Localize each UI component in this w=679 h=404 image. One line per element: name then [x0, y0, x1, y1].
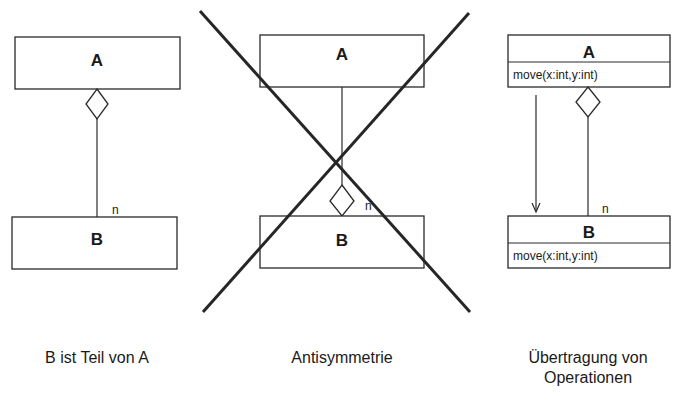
- class-a-name: A: [336, 45, 348, 64]
- class-b-name: B: [336, 231, 348, 250]
- caption-line-2: Operationen: [498, 368, 678, 388]
- multiplicity-label: n: [602, 202, 609, 216]
- caption-operation-propagation: Übertragung von Operationen: [498, 348, 678, 388]
- caption-line-1: Übertragung von: [498, 348, 678, 368]
- aggregation-diamond-icon: [86, 89, 108, 119]
- uml-aggregation-diagrams: A n B A n B A move(x:int,y:int) n B move…: [0, 0, 679, 404]
- caption-part-of: B ist Teil von A: [12, 348, 182, 368]
- class-a-name: A: [583, 43, 595, 62]
- caption-antisymmetry: Antisymmetrie: [262, 348, 422, 368]
- class-b-name: B: [91, 230, 103, 249]
- class-a-name: A: [91, 51, 103, 70]
- multiplicity-label: n: [112, 203, 119, 217]
- aggregation-diamond-icon: [330, 185, 354, 216]
- class-a-operation: move(x:int,y:int): [513, 68, 598, 82]
- diagram-antisymmetry: A n B: [200, 11, 470, 312]
- diagram-operation-propagation: A move(x:int,y:int) n B move(x:int,y:int…: [508, 35, 670, 268]
- class-b-operation: move(x:int,y:int): [513, 249, 598, 263]
- diagram-part-of: A n B: [12, 37, 180, 269]
- aggregation-diamond-icon: [576, 87, 600, 117]
- class-b-name: B: [583, 223, 595, 242]
